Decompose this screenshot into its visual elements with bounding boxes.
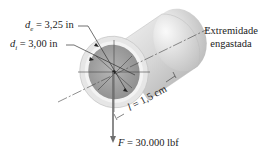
fixed-end-line2: engastada — [200, 37, 262, 50]
fixed-end-line1: Extremidade — [200, 24, 262, 37]
force-label: F = 30.000 lbf — [118, 138, 179, 149]
inner-diameter-label: di = 3,00 in — [10, 39, 58, 52]
fixed-end-label: Extremidade engastada — [200, 24, 262, 50]
outer-diameter-label: de = 3,25 in — [25, 20, 74, 33]
